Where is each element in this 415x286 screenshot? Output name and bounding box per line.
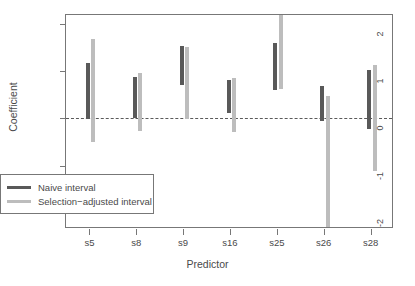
x-tick-mark bbox=[183, 229, 184, 235]
chart-root: Coefficient 210-1-2 s5s8s9s16s25s26s28 N… bbox=[0, 0, 415, 286]
interval-bar-s26-adjusted bbox=[326, 96, 330, 227]
y-tick-mark bbox=[60, 166, 66, 167]
interval-bar-s9-adjusted bbox=[185, 47, 189, 119]
interval-bar-s25-naive bbox=[273, 43, 277, 90]
x-tick-mark bbox=[230, 229, 231, 235]
interval-bar-s25-adjusted bbox=[279, 15, 283, 89]
legend-label-selection-adjusted: Selection−adjusted interval bbox=[38, 196, 152, 207]
x-tick-label-s8: s8 bbox=[131, 237, 141, 248]
interval-bar-s8-adjusted bbox=[138, 73, 142, 131]
x-axis-title-label: Predictor bbox=[186, 258, 228, 270]
legend-swatch-naive-icon bbox=[7, 186, 31, 189]
interval-bar-s28-naive bbox=[367, 70, 371, 129]
x-tick-label-s26: s26 bbox=[316, 237, 331, 248]
x-tick-mark bbox=[277, 229, 278, 235]
legend-swatch-selection-adjusted-icon bbox=[7, 200, 31, 203]
y-tick-mark bbox=[60, 118, 66, 119]
zero-reference-line bbox=[66, 118, 392, 119]
y-tick-label: -2 bbox=[375, 212, 385, 234]
interval-bar-s9-naive bbox=[180, 46, 184, 85]
y-tick-label: 1 bbox=[375, 70, 385, 92]
x-tick-label-s9: s9 bbox=[178, 237, 188, 248]
x-tick-mark bbox=[371, 229, 372, 235]
legend-item-selection-adjusted: Selection−adjusted interval bbox=[7, 194, 147, 208]
x-tick-label-s5: s5 bbox=[84, 237, 94, 248]
x-tick-mark bbox=[324, 229, 325, 235]
x-tick-label-s16: s16 bbox=[222, 237, 237, 248]
x-axis-title: Predictor bbox=[0, 258, 415, 270]
interval-bar-s16-adjusted bbox=[232, 78, 236, 131]
x-tick-label-s25: s25 bbox=[269, 237, 284, 248]
legend-label-naive: Naive interval bbox=[38, 182, 96, 193]
y-tick-label: 0 bbox=[375, 117, 385, 139]
y-tick-label: -1 bbox=[375, 165, 385, 187]
chart-legend: Naive interval Selection−adjusted interv… bbox=[0, 174, 154, 214]
x-tick-mark bbox=[136, 229, 137, 235]
interval-bar-s26-naive bbox=[320, 86, 324, 120]
x-tick-mark bbox=[89, 229, 90, 235]
legend-item-naive: Naive interval bbox=[7, 180, 147, 194]
interval-bar-s5-naive bbox=[86, 63, 90, 119]
y-tick-mark bbox=[60, 71, 66, 72]
interval-bar-s16-naive bbox=[227, 80, 231, 112]
interval-bar-s5-adjusted bbox=[91, 39, 95, 142]
y-axis-title-label: Coefficient bbox=[7, 82, 19, 131]
x-tick-label-s28: s28 bbox=[363, 237, 378, 248]
y-tick-mark bbox=[60, 24, 66, 25]
y-tick-label: 2 bbox=[375, 23, 385, 45]
interval-bar-s8-naive bbox=[133, 77, 137, 118]
